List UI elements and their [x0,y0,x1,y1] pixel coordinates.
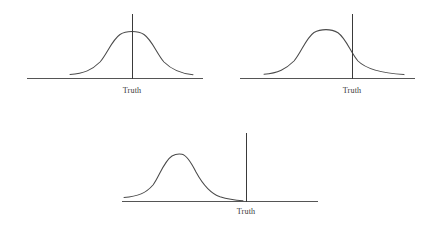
panel-strong-bias-truth-label: Truth [237,207,256,216]
figure-root: Truth Truth Truth [0,0,437,225]
panel-strong-bias: Truth [122,133,318,216]
distribution-figure: Truth Truth Truth [0,0,437,225]
panel-strong-bias-curve [124,154,243,201]
panel-slight-bias-truth-label: Truth [343,86,362,95]
panel-slight-bias: Truth [240,14,415,95]
panel-unbiased: Truth [27,14,203,95]
panel-unbiased-curve [70,32,193,75]
panel-unbiased-truth-label: Truth [123,86,142,95]
panel-slight-bias-curve [264,30,404,75]
